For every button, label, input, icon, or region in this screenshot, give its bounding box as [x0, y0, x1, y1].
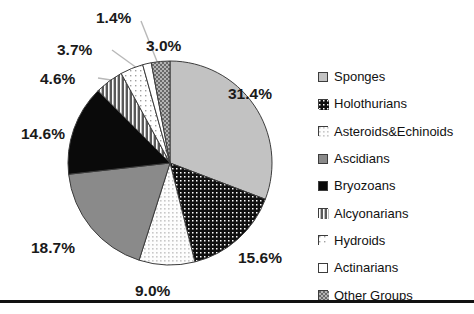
legend-item-label: Asteroids&Echinoids — [334, 125, 453, 138]
pie-plot-area: 31.4%15.6%9.0%18.7%14.6%4.6%3.7%1.4%3.0% — [0, 0, 320, 300]
pie-data-label: 3.0% — [146, 38, 181, 54]
pie-data-label: 31.4% — [228, 86, 272, 102]
pie-data-label: 4.6% — [40, 71, 75, 87]
legend-swatch-icon — [318, 290, 328, 300]
legend-swatch-icon — [318, 263, 328, 273]
legend-item-label: Holothurians — [334, 97, 407, 110]
legend-item[interactable]: Bryozoans — [318, 172, 474, 199]
legend-item[interactable]: Actinarians — [318, 254, 474, 281]
legend-swatch-icon — [318, 181, 328, 191]
pie-data-label: 9.0% — [135, 283, 170, 299]
legend-swatch-icon — [318, 208, 328, 218]
legend-swatch-icon — [318, 154, 328, 164]
legend-swatch-icon — [318, 126, 328, 136]
pie-chart-figure: 31.4%15.6%9.0%18.7%14.6%4.6%3.7%1.4%3.0%… — [0, 0, 474, 314]
legend-item[interactable]: Ascidians — [318, 145, 474, 172]
pie-data-label: 15.6% — [238, 250, 282, 266]
legend-item[interactable]: Sponges — [318, 63, 474, 90]
pie-data-label: 14.6% — [21, 126, 65, 142]
pie-data-label: 18.7% — [31, 240, 75, 256]
legend-item-label: Hydroids — [334, 234, 385, 247]
legend-item-label: Ascidians — [334, 152, 390, 165]
bottom-rule-divider — [0, 300, 474, 303]
legend-swatch-icon — [318, 72, 328, 82]
legend-item-label: Actinarians — [334, 261, 398, 274]
pie-data-label: 1.4% — [96, 10, 131, 26]
legend-item-label: Alcyonarians — [334, 207, 408, 220]
legend-item[interactable]: Other Groups — [318, 281, 474, 308]
pie-data-label: 3.7% — [57, 42, 92, 58]
legend-item-label: Sponges — [334, 70, 385, 83]
legend-swatch-icon — [318, 235, 328, 245]
legend-item-label: Bryozoans — [334, 179, 395, 192]
legend-item[interactable]: Holothurians — [318, 90, 474, 117]
legend-swatch-icon — [318, 99, 328, 109]
legend-item[interactable]: Hydroids — [318, 227, 474, 254]
chart-legend: SpongesHolothuriansAsteroids&EchinoidsAs… — [318, 63, 474, 309]
legend-item[interactable]: Asteroids&Echinoids — [318, 118, 474, 145]
legend-item[interactable]: Alcyonarians — [318, 199, 474, 226]
